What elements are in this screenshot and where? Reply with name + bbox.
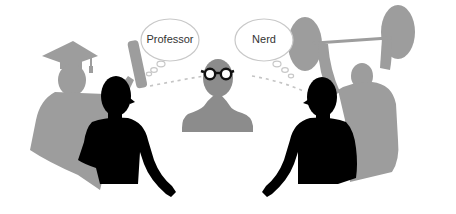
nerd-thought-bubble (235, 19, 294, 78)
center-figure (182, 59, 253, 132)
professor-bubble-label: Professor (141, 33, 199, 45)
nerd-bubble-label: Nerd (235, 33, 293, 45)
illustration-canvas (0, 0, 456, 214)
professor-thought-bubble (141, 19, 199, 76)
